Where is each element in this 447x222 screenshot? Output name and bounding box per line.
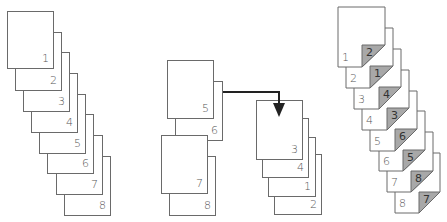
page-number: 8 (399, 198, 406, 209)
flap-number: 6 (399, 131, 406, 142)
flap-number: 2 (366, 47, 373, 58)
page-number: 1 (342, 52, 349, 63)
page-number: 6 (383, 156, 390, 167)
flap-number: 3 (391, 110, 398, 121)
flap-number: 1 (374, 68, 381, 79)
page-number: 4 (366, 115, 373, 126)
flap-number: 4 (383, 89, 390, 100)
flap-number: 5 (407, 152, 414, 163)
flap-number: 8 (415, 173, 422, 184)
page-number: 5 (374, 136, 381, 147)
page-number: 7 (391, 177, 398, 188)
flap-number: 7 (423, 194, 430, 205)
page-number: 3 (358, 94, 365, 105)
page-number: 2 (350, 73, 357, 84)
right-folded-page-stack (0, 0, 447, 222)
